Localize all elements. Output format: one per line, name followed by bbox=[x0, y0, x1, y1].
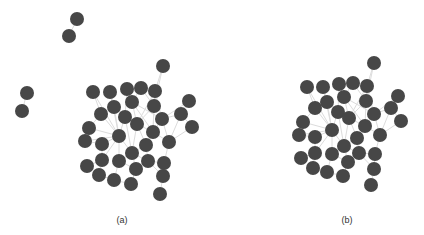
graph-node bbox=[308, 130, 322, 144]
graph-node bbox=[139, 138, 153, 152]
graph-node bbox=[157, 156, 171, 170]
caption-b: (b) bbox=[342, 215, 353, 225]
graph-node bbox=[148, 84, 162, 98]
graph-node bbox=[337, 90, 351, 104]
graph-node bbox=[306, 161, 320, 175]
graph-node bbox=[296, 115, 310, 129]
graph-node bbox=[300, 80, 314, 94]
graph-node bbox=[107, 173, 121, 187]
graph-node bbox=[146, 125, 160, 139]
graph-node bbox=[336, 169, 350, 183]
graph-node bbox=[20, 86, 34, 100]
graph-node bbox=[332, 77, 346, 91]
graph-node bbox=[112, 154, 126, 168]
graph-node bbox=[86, 85, 100, 99]
graph-b-nodes bbox=[292, 56, 408, 192]
graph-node bbox=[320, 95, 334, 109]
graph-node bbox=[153, 187, 167, 201]
graph-node bbox=[352, 146, 366, 160]
graph-node bbox=[156, 169, 170, 183]
graph-node bbox=[367, 56, 381, 70]
graph-node bbox=[384, 101, 398, 115]
graph-panel-a bbox=[15, 12, 199, 201]
graph-node bbox=[155, 112, 169, 126]
graph-node bbox=[124, 177, 138, 191]
graph-node bbox=[341, 155, 355, 169]
graph-node bbox=[359, 94, 373, 108]
graph-node bbox=[337, 139, 351, 153]
network-figure bbox=[0, 0, 424, 235]
graph-node bbox=[94, 107, 108, 121]
graph-node bbox=[316, 80, 330, 94]
graph-node bbox=[82, 121, 96, 135]
graph-node bbox=[70, 12, 84, 26]
graph-node bbox=[112, 129, 126, 143]
graph-node bbox=[308, 146, 322, 160]
graph-node bbox=[80, 159, 94, 173]
graph-node bbox=[182, 94, 196, 108]
graph-node bbox=[325, 123, 339, 137]
graph-node bbox=[394, 114, 408, 128]
graph-node bbox=[185, 120, 199, 134]
graph-node bbox=[125, 95, 139, 109]
graph-node bbox=[360, 79, 374, 93]
graph-node bbox=[95, 137, 109, 151]
graph-node bbox=[367, 107, 381, 121]
graph-node bbox=[15, 104, 29, 118]
graph-node bbox=[95, 153, 109, 167]
graph-node bbox=[78, 134, 92, 148]
graph-node bbox=[107, 100, 121, 114]
graph-node bbox=[134, 81, 148, 95]
graph-node bbox=[292, 128, 306, 142]
graph-node bbox=[156, 59, 170, 73]
graph-node bbox=[308, 101, 322, 115]
graph-node bbox=[350, 131, 364, 145]
graph-node bbox=[162, 135, 176, 149]
graph-node bbox=[391, 89, 405, 103]
graph-node bbox=[367, 162, 381, 176]
graph-node bbox=[147, 99, 161, 113]
graph-node bbox=[141, 154, 155, 168]
graph-node bbox=[92, 168, 106, 182]
graph-node bbox=[118, 110, 132, 124]
graph-node bbox=[129, 162, 143, 176]
graph-node bbox=[358, 119, 372, 133]
graph-node bbox=[373, 128, 387, 142]
graph-node bbox=[294, 151, 308, 165]
graph-node bbox=[368, 147, 382, 161]
graph-node bbox=[130, 117, 144, 131]
graph-node bbox=[103, 85, 117, 99]
graph-panel-b bbox=[292, 56, 408, 192]
graph-a-nodes bbox=[15, 12, 199, 201]
graph-node bbox=[320, 165, 334, 179]
graph-node bbox=[62, 29, 76, 43]
graph-node bbox=[125, 146, 139, 160]
graph-node bbox=[174, 107, 188, 121]
graph-node bbox=[364, 178, 378, 192]
graph-node bbox=[346, 76, 360, 90]
caption-a: (a) bbox=[117, 215, 128, 225]
graph-node bbox=[120, 82, 134, 96]
graph-node bbox=[325, 147, 339, 161]
graph-node bbox=[342, 111, 356, 125]
